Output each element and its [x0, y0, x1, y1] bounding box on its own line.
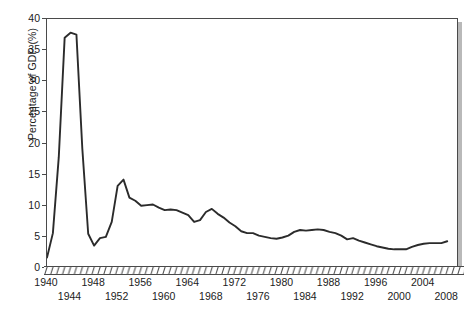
x-axis-tick-label: 1964 — [176, 276, 199, 288]
x-axis-tick-label: 1952 — [105, 290, 128, 302]
y-axis-tick-label: 5 — [18, 230, 40, 242]
y-axis-tick-labels: 0510152025303540 — [16, 0, 40, 311]
data-line-svg — [47, 19, 459, 268]
x-axis-tick-label: 1984 — [293, 290, 316, 302]
x-axis-tick-label: 1940 — [34, 276, 57, 288]
x-axis-tick-label: 1976 — [246, 290, 269, 302]
data-series-line — [47, 33, 447, 258]
x-axis-tick-label: 2000 — [387, 290, 410, 302]
chart-container: Percentage of GDP (%) 0510152025303540 1… — [0, 0, 469, 311]
x-axis-tick-label: 1980 — [270, 276, 293, 288]
x-axis-tick-label: 1996 — [364, 276, 387, 288]
x-axis-tick-label: 1972 — [223, 276, 246, 288]
x-axis-tick-label: 2004 — [411, 276, 434, 288]
x-axis-tick-label: 1948 — [81, 276, 104, 288]
plot-area — [46, 18, 458, 267]
y-axis-tick-label: 0 — [18, 261, 40, 273]
y-axis-tick-label: 40 — [18, 12, 40, 24]
x-axis-tick-label: 1944 — [58, 290, 81, 302]
y-axis-tick-label: 15 — [18, 168, 40, 180]
x-axis-tick-label: 1992 — [340, 290, 363, 302]
x-axis-tick-label: 2008 — [435, 290, 458, 302]
y-axis-tick-label: 10 — [18, 199, 40, 211]
y-axis-tick-label: 25 — [18, 105, 40, 117]
x-axis-tick-label: 1956 — [129, 276, 152, 288]
y-axis-tick-label: 30 — [18, 74, 40, 86]
x-axis-hatched-band — [44, 266, 464, 275]
y-axis-tick-label: 20 — [18, 137, 40, 149]
x-axis-tick-label: 1968 — [199, 290, 222, 302]
y-axis-tick-label: 35 — [18, 43, 40, 55]
x-axis-tick-label: 1988 — [317, 276, 340, 288]
x-axis-tick-label: 1960 — [152, 290, 175, 302]
